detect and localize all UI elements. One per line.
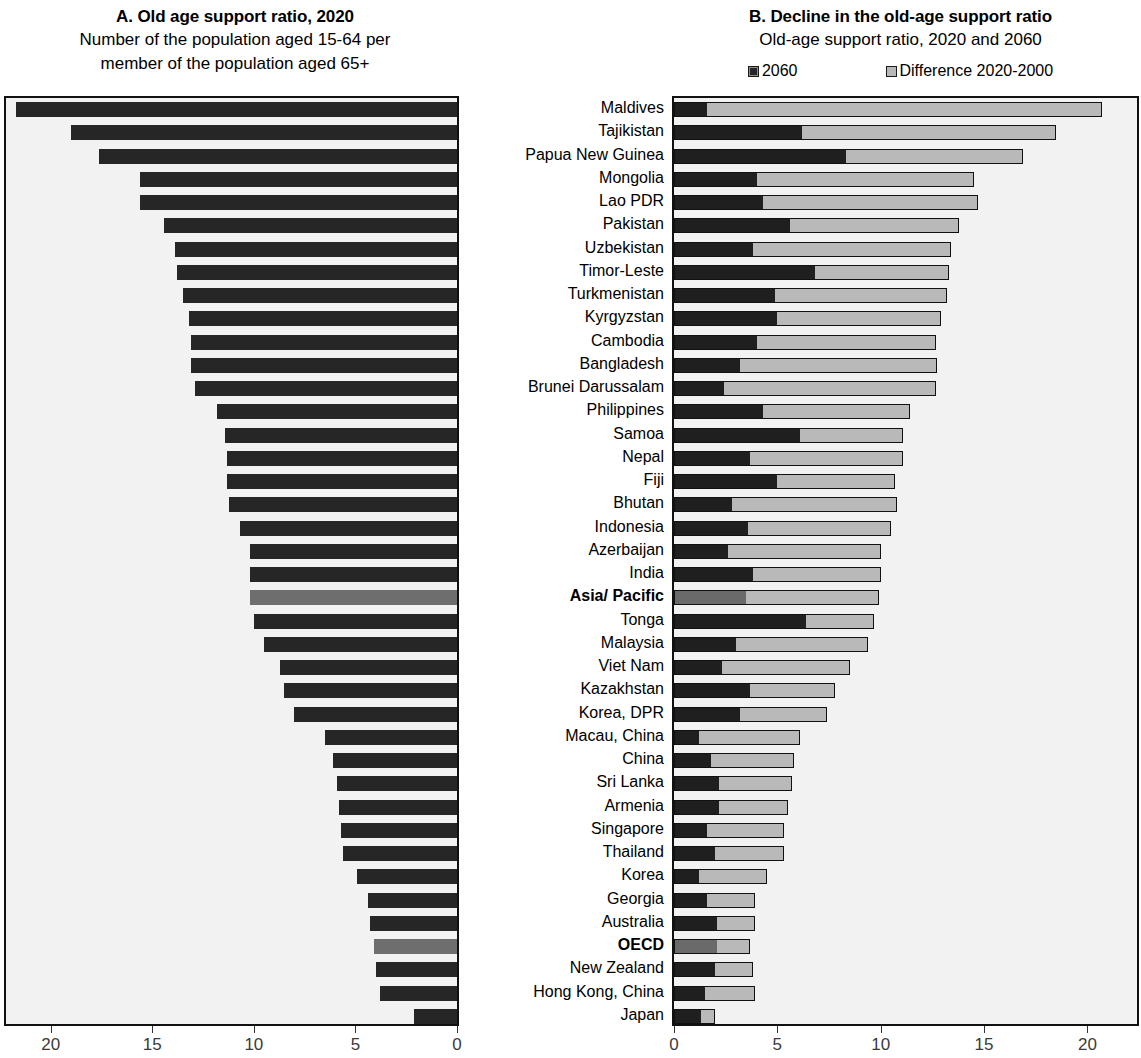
axis-tick-label: 20 <box>41 1035 60 1055</box>
panel-b-stacked-bar <box>674 1009 715 1024</box>
panel-a-bar-row <box>6 214 457 238</box>
panel-b-stacked-bar <box>674 800 788 815</box>
panel-b-stacked-bar <box>674 404 910 419</box>
axis-tick-label: 20 <box>1078 1035 1097 1055</box>
panel-b-bar-row <box>674 586 1137 610</box>
panel-a-bar <box>189 311 457 326</box>
panel-b-stacked-bar <box>674 707 827 722</box>
panel-b-bar-row <box>674 214 1137 238</box>
axis-tick-label: 5 <box>773 1035 782 1055</box>
panel-a-bar-row <box>6 493 457 517</box>
panel-b-bar-row <box>674 517 1137 541</box>
panel-b-bar-row <box>674 912 1137 936</box>
category-label: Tajikistan <box>459 119 664 143</box>
category-label: Uzbekistan <box>459 236 664 260</box>
panel-b-segment-difference <box>753 567 881 582</box>
axis-tick <box>355 1026 356 1033</box>
category-label: Kazakhstan <box>459 677 664 701</box>
panel-a-bar-row <box>6 145 457 169</box>
panel-b-segment-difference <box>699 869 767 884</box>
panel-a-bar <box>254 614 457 629</box>
category-label: Macau, China <box>459 724 664 748</box>
panel-b-bar-row <box>674 307 1137 331</box>
category-label: Bhutan <box>459 491 664 515</box>
category-label: Hong Kong, China <box>459 980 664 1004</box>
category-label: Pakistan <box>459 212 664 236</box>
panel-b-segment-2060 <box>674 451 750 466</box>
panel-b-stacked-bar <box>674 381 936 396</box>
panel-a-bar-row <box>6 958 457 982</box>
panel-a-bar <box>414 1009 457 1024</box>
category-label: Malaysia <box>459 631 664 655</box>
panel-b-segment-difference <box>750 451 903 466</box>
panel-b-stacked-bar <box>674 939 750 954</box>
panel-b-segment-2060 <box>674 521 748 536</box>
panel-a-bar <box>368 893 457 908</box>
panel-b-bar-row <box>674 470 1137 494</box>
panel-b-stacked-bar <box>674 567 881 582</box>
panel-b-bar-row <box>674 842 1137 866</box>
category-label: Sri Lanka <box>459 770 664 794</box>
panel-b-bar-row <box>674 656 1137 680</box>
category-label: Georgia <box>459 887 664 911</box>
axis-tick-label: 15 <box>143 1035 162 1055</box>
panel-b-segment-2060 <box>674 660 722 675</box>
panel-b-stacked-bar <box>674 195 978 210</box>
panel-a-bar <box>195 381 457 396</box>
panel-b-stacked-bar <box>674 335 936 350</box>
panel-b-bar-row <box>674 726 1137 750</box>
panel-a-bar <box>175 242 457 257</box>
panel-b-bar-row <box>674 889 1137 913</box>
panel-a-bar-row <box>6 586 457 610</box>
legend-label-2060: 2060 <box>762 62 798 80</box>
panel-a-bar-row <box>6 191 457 215</box>
axis-tick <box>984 1026 985 1033</box>
panel-b-segment-2060 <box>674 776 719 791</box>
panel-a-bar <box>227 474 457 489</box>
panel-b-segment-difference <box>800 428 903 443</box>
panel-b-bar-row <box>674 540 1137 564</box>
panel-b-bar-row <box>674 633 1137 657</box>
panel-b-segment-difference <box>740 358 936 373</box>
panel-b-title: B. Decline in the old-age support ratio <box>660 6 1141 28</box>
panel-b-stacked-bar <box>674 916 755 931</box>
category-label: Lao PDR <box>459 189 664 213</box>
panel-b-stacked-bar <box>674 776 792 791</box>
panel-b-segment-2060 <box>674 311 777 326</box>
axis-tick <box>777 1026 778 1033</box>
panel-b-bar-row <box>674 796 1137 820</box>
panel-b-segment-2060 <box>674 474 777 489</box>
panel-b-stacked-bar <box>674 753 794 768</box>
category-label: Bangladesh <box>459 352 664 376</box>
panel-a-bar <box>225 428 457 443</box>
panel-b-segment-2060 <box>674 149 846 164</box>
axis-tick-label: 15 <box>975 1035 994 1055</box>
panel-b-stacked-bar <box>674 172 974 187</box>
panel-b-bar-row <box>674 261 1137 285</box>
panel-b-segment-2060 <box>674 497 732 512</box>
panel-a-title: A. Old age support ratio, 2020 <box>0 6 470 28</box>
panel-a-bar-row <box>6 865 457 889</box>
panel-b-stacked-bar <box>674 311 941 326</box>
category-label: Turkmenistan <box>459 282 664 306</box>
panel-a-bar-row <box>6 400 457 424</box>
panel-b-segment-2060 <box>674 102 707 117</box>
panel-b-stacked-bar <box>674 288 947 303</box>
panel-a-bar-row <box>6 563 457 587</box>
panel-b-x-axis: 05101520 <box>672 1026 1139 1058</box>
panel-b-stacked-bar <box>674 521 891 536</box>
panel-a-bar-row <box>6 796 457 820</box>
panel-b-stacked-bar <box>674 823 784 838</box>
panel-b-plot-area <box>672 96 1139 1026</box>
axis-tick <box>881 1026 882 1033</box>
panel-a-bar-row <box>6 424 457 448</box>
panel-a-bar-row <box>6 842 457 866</box>
panel-b-segment-difference <box>777 311 940 326</box>
panel-a-bar-row <box>6 377 457 401</box>
axis-tick-label: 10 <box>244 1035 263 1055</box>
panel-b-stacked-bar <box>674 358 937 373</box>
panel-b-bar-row <box>674 703 1137 727</box>
panel-a-bar-row <box>6 772 457 796</box>
panel-a-bar-row <box>6 679 457 703</box>
panel-b-segment-2060 <box>674 823 707 838</box>
